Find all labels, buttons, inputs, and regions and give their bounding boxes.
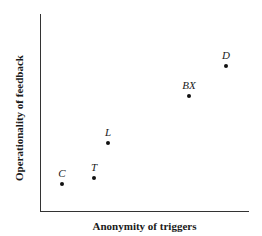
x-axis-line [40, 211, 249, 212]
y-axis-line [40, 14, 41, 212]
data-point-l [106, 141, 110, 145]
y-axis-label: Operationality of feedback [13, 33, 25, 203]
data-point-label: L [105, 126, 111, 138]
data-point-c [60, 182, 64, 186]
x-axis-label: Anonymity of triggers [40, 220, 249, 232]
data-point-label: T [91, 161, 97, 173]
data-point-label: D [222, 49, 230, 61]
data-point-label: BX [182, 79, 195, 91]
data-point-label: C [58, 167, 65, 179]
data-point-d [224, 64, 228, 68]
data-point-t [92, 176, 96, 180]
data-point-bx [187, 94, 191, 98]
